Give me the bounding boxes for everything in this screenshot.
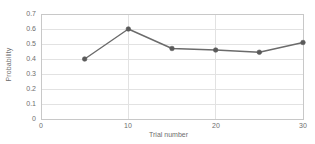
data-point-marker bbox=[257, 50, 262, 55]
data-point-marker bbox=[82, 57, 87, 62]
x-axis-title-text: Trial number bbox=[127, 131, 188, 138]
x-axis-title: Trial number bbox=[0, 131, 315, 138]
data-point-marker bbox=[213, 48, 218, 53]
x-tick-label: 30 bbox=[293, 122, 313, 130]
x-tick-label: 10 bbox=[118, 122, 138, 130]
line-chart: Probability 0.7 0.6 0.5 0.4 0.3 0.2 0.1 … bbox=[0, 0, 315, 144]
data-point-marker bbox=[301, 40, 306, 45]
data-point-marker bbox=[126, 27, 131, 32]
plot-border bbox=[41, 14, 303, 119]
x-tick-label: 20 bbox=[206, 122, 226, 130]
data-point-marker bbox=[170, 46, 175, 51]
x-tick-label: 0 bbox=[31, 122, 51, 130]
